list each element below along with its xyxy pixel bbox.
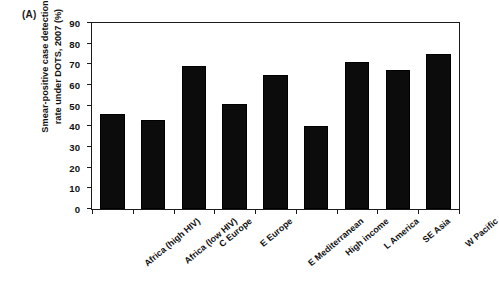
y-tick-label: 60 bbox=[69, 80, 80, 91]
x-axis-labels: Africa (high HIV)Africa (low HIV)C Europ… bbox=[91, 216, 460, 300]
y-axis-title: Smear-positive case detection rate under… bbox=[39, 0, 64, 162]
bar bbox=[386, 70, 410, 210]
y-tick-label: 40 bbox=[69, 121, 80, 132]
x-tick bbox=[255, 209, 256, 214]
y-tick-label: 10 bbox=[69, 183, 80, 194]
y-axis-title-line-2: rate under DOTS, 2007 (%) bbox=[51, 0, 64, 162]
x-axis-label: SE Asia bbox=[420, 216, 452, 245]
bar bbox=[263, 75, 287, 209]
bar-slot bbox=[296, 23, 337, 209]
x-tick bbox=[92, 209, 93, 214]
y-tick-label: 20 bbox=[69, 162, 80, 173]
bar-slot bbox=[133, 23, 174, 209]
y-tick-label: 90 bbox=[69, 18, 80, 29]
y-tick-label: 50 bbox=[69, 100, 80, 111]
bar bbox=[426, 54, 450, 209]
bars-layer bbox=[92, 23, 459, 209]
y-tick-label: 70 bbox=[69, 59, 80, 70]
bar bbox=[345, 62, 369, 209]
x-tick bbox=[133, 209, 134, 214]
bar-slot bbox=[255, 23, 296, 209]
bar bbox=[100, 114, 124, 209]
x-tick bbox=[418, 209, 419, 214]
x-tick bbox=[296, 209, 297, 214]
x-tick bbox=[174, 209, 175, 214]
bar bbox=[222, 104, 246, 209]
plot-area: 0102030405060708090 bbox=[91, 22, 460, 210]
x-tick bbox=[377, 209, 378, 214]
y-tick-label: 80 bbox=[69, 38, 80, 49]
x-tick bbox=[214, 209, 215, 214]
y-axis-title-line-1: Smear-positive case detection bbox=[39, 0, 52, 162]
x-axis-label: E Europe bbox=[258, 216, 294, 249]
bar-slot bbox=[377, 23, 418, 209]
bar-slot bbox=[214, 23, 255, 209]
y-tick-label: 0 bbox=[75, 204, 80, 215]
x-axis-label: W Pacific bbox=[463, 216, 499, 249]
bar-slot bbox=[418, 23, 459, 209]
x-tick bbox=[459, 209, 460, 214]
x-tick bbox=[337, 209, 338, 214]
bar bbox=[141, 120, 165, 209]
y-tick-label: 30 bbox=[69, 142, 80, 153]
bar-slot bbox=[174, 23, 215, 209]
bar bbox=[304, 126, 328, 209]
panel-label: (A) bbox=[22, 9, 36, 20]
bar-slot bbox=[337, 23, 378, 209]
bar-slot bbox=[92, 23, 133, 209]
bar bbox=[182, 66, 206, 209]
